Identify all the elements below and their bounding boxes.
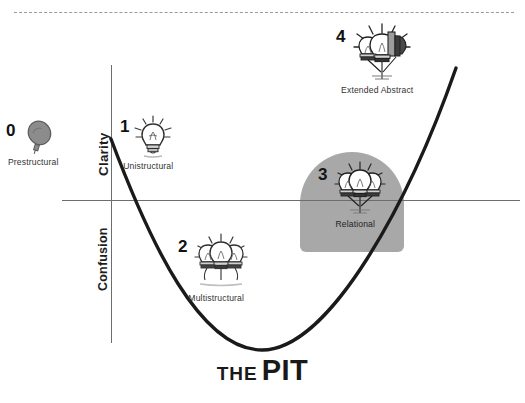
stage-4-number: 4: [336, 28, 345, 45]
stage-1-label: Unistructural: [120, 161, 176, 171]
stage-4-label: Extended Abstract: [336, 85, 418, 95]
top-dashed-divider: [14, 12, 514, 13]
stage-4: 4: [336, 22, 418, 95]
stage-1-row: 1: [120, 112, 176, 160]
stage-2: 2: [178, 232, 254, 303]
stage-2-label: Multistructural: [178, 293, 254, 303]
stage-0-label: Prestructural: [6, 157, 60, 167]
unlit-bulb-icon: [16, 116, 60, 156]
axis-label-confusion: Confusion: [96, 227, 110, 291]
pit-diagram: Clarity Confusion 0 Prestructural 1: [0, 0, 525, 403]
stage-4-row: 4: [336, 22, 418, 84]
stage-3-number: 3: [318, 166, 327, 183]
stage-0: 0 Prestructural: [6, 116, 60, 167]
stage-3-label: Relational: [318, 219, 392, 229]
three-bulbs-icon: [188, 232, 254, 292]
stage-0-row: 0: [6, 116, 60, 156]
vertical-axis: [111, 65, 112, 343]
title-pit: PIT: [262, 354, 309, 386]
stage-1: 1: [120, 112, 176, 171]
lit-bulb-icon: [130, 112, 176, 160]
stage-1-number: 1: [120, 118, 129, 135]
stage-3-row: 3: [318, 160, 392, 218]
stage-2-number: 2: [178, 238, 187, 255]
diagram-title: THEPIT: [0, 356, 525, 385]
title-the: THE: [217, 363, 258, 384]
horizontal-axis: [62, 200, 520, 201]
stage-3: 3: [318, 160, 392, 229]
learning-pit-curve: [0, 0, 525, 403]
connected-bulbs-icon: [328, 160, 392, 218]
stage-0-number: 0: [6, 122, 15, 139]
stage-2-row: 2: [178, 232, 254, 292]
axis-label-clarity: Clarity: [96, 133, 111, 176]
abstract-bulbs-icon: [346, 22, 418, 84]
